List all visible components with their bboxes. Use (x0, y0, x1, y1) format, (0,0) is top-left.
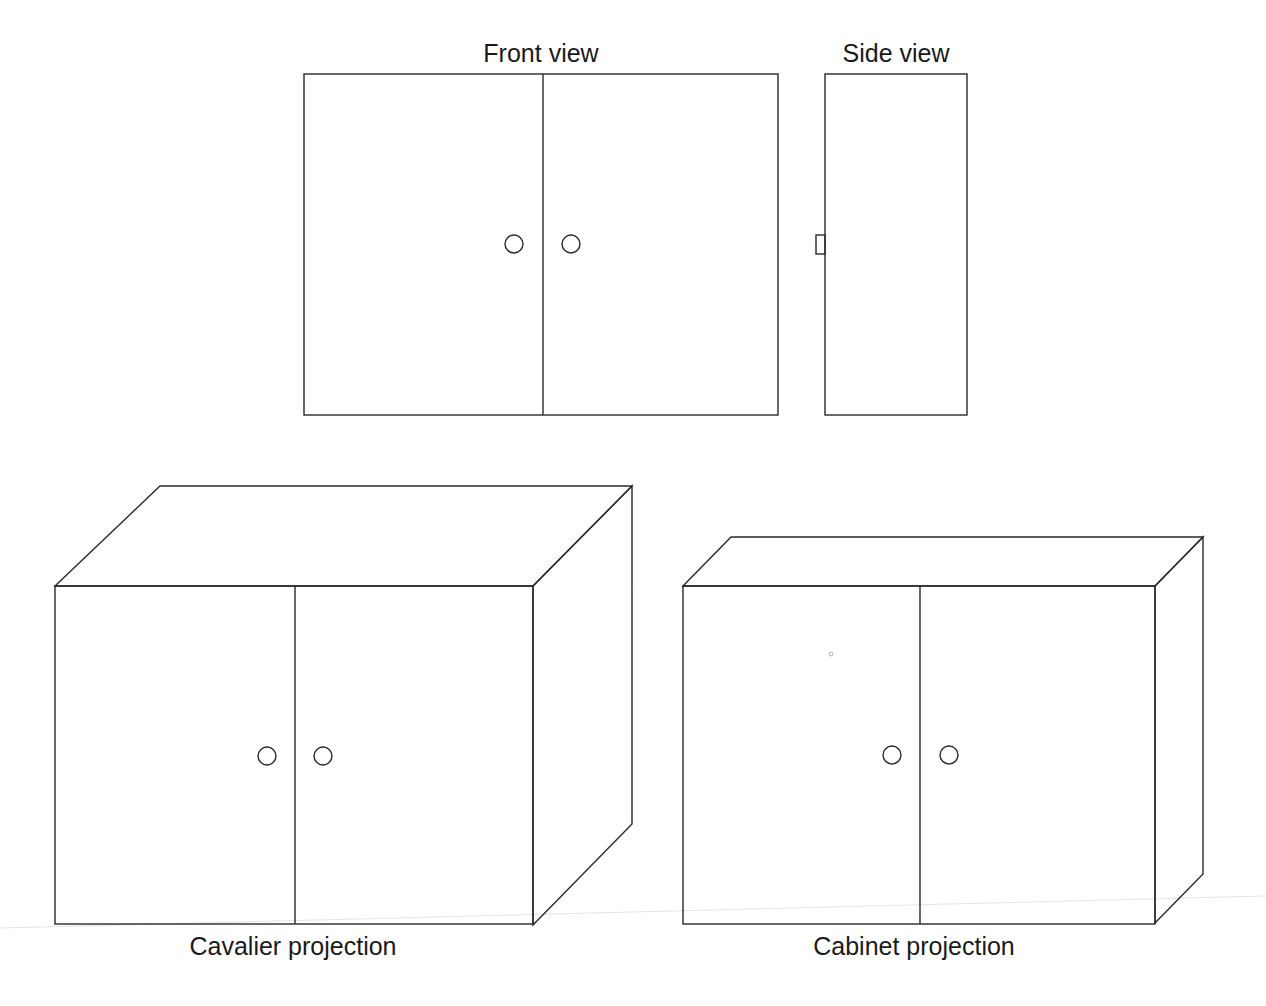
cabinet-left-knob-icon (883, 746, 901, 764)
cavalier-projection-label: Cavalier projection (189, 932, 396, 960)
cavalier-top-face (55, 486, 632, 586)
scan-artifact-line (0, 896, 1266, 928)
cabinet-projection-label: Cabinet projection (813, 932, 1015, 960)
side-view-label: Side view (843, 39, 951, 67)
front-view-left-knob-icon (505, 235, 523, 253)
cabinet-projection: Cabinet projection (683, 537, 1203, 960)
cavalier-left-knob-icon (258, 747, 276, 765)
side-view: Side view (816, 39, 967, 415)
front-view: Front view (304, 39, 778, 415)
front-view-right-knob-icon (562, 235, 580, 253)
side-view-knob-icon (816, 235, 825, 254)
cabinet-right-knob-icon (940, 746, 958, 764)
cavalier-projection: Cavalier projection (55, 486, 632, 960)
front-view-label: Front view (483, 39, 599, 67)
cabinet-side-face (1155, 537, 1203, 923)
side-view-outline (825, 74, 967, 415)
cavalier-side-face (533, 486, 632, 925)
cabinet-top-face (683, 537, 1203, 586)
cavalier-front-face (55, 586, 533, 924)
cavalier-right-knob-icon (314, 747, 332, 765)
projection-diagram: Front view Side view Cavalier projection (0, 0, 1266, 1006)
scan-speck (829, 652, 833, 656)
front-view-outline (304, 74, 778, 415)
cabinet-front-face (683, 586, 1155, 924)
